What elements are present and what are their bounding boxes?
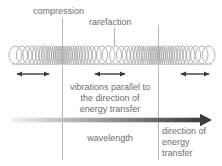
energy-transfer-note: direction of energy transfer <box>162 126 220 159</box>
energy-arrow-head <box>200 114 212 127</box>
energy-arrow-shaft <box>10 118 202 123</box>
wavelength-label: wavelength <box>62 133 158 144</box>
energy-note-line-3: transfer <box>162 148 220 159</box>
longitudinal-wave-diagram: compression rarefaction vibrations paral… <box>0 0 222 166</box>
energy-note-line-1: direction of <box>162 126 220 137</box>
energy-note-line-2: energy <box>162 137 220 148</box>
